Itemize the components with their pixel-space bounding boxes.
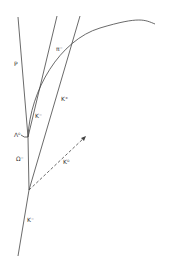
label-pi-minus: π⁻ [56,45,63,52]
label-k-plus: K⁺ [61,95,68,102]
lambda-pointer [21,135,28,137]
track-diagram: P π⁻ K⁻ K⁺ Λ⁰ Ω⁻ K⁰ K⁻ [0,0,170,268]
k0-neutral-track [29,137,85,190]
label-lambda0: Λ⁰ [14,131,21,138]
label-k0: K⁰ [63,158,70,165]
k-minus-beam-track [18,190,29,256]
label-p: P [14,60,18,67]
pi-minus-track [28,20,155,137]
label-omega-minus: Ω⁻ [16,155,24,162]
label-k-minus-upper: K⁻ [35,112,42,119]
k-plus-track [29,16,80,190]
omega-minus-track [28,137,29,190]
label-k-minus-beam: K⁻ [27,216,34,223]
k-minus-secondary-track [28,16,57,137]
proton-track [18,17,28,137]
